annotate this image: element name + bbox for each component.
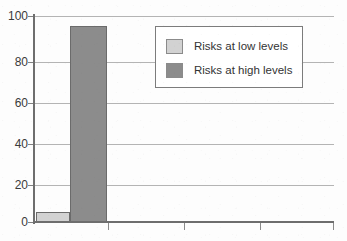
legend-label-low: Risks at low levels (194, 40, 288, 52)
y-tick-label-40: 40 (0, 138, 28, 150)
y-tick-label-0: 0 (0, 216, 28, 228)
x-tick-mark-3 (260, 223, 261, 230)
x-tick-mark-2 (184, 223, 185, 230)
y-tick-label-60: 60 (0, 97, 28, 109)
x-tick-mark-1 (108, 223, 109, 230)
y-axis-line (33, 14, 35, 224)
y-tick-label-100: 100 (0, 10, 28, 22)
gridline-100 (34, 16, 334, 17)
legend-swatch-icon-low (166, 39, 183, 54)
y-tick-label-20: 20 (0, 179, 28, 191)
y-axis-tick-labels: 100 80 60 40 20 0 (0, 0, 28, 241)
y-tick-label-80: 80 (0, 56, 28, 68)
bar-risks-at-high-levels (70, 26, 107, 222)
legend-item-high: Risks at high levels (166, 58, 302, 82)
chart-legend: Risks at low levels Risks at high levels (155, 26, 303, 88)
bar-chart: 100 80 60 40 20 0 Risks at low levels (0, 0, 347, 241)
legend-swatch-icon-high (166, 63, 183, 78)
legend-item-low: Risks at low levels (166, 34, 302, 58)
legend-label-high: Risks at high levels (194, 64, 292, 76)
x-tick-mark-4 (333, 223, 334, 230)
